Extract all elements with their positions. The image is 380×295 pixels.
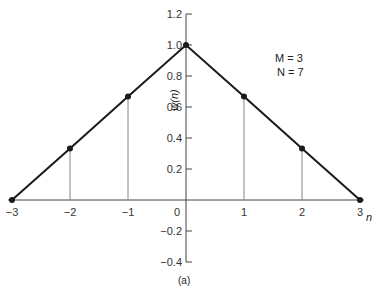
x-tick-label: −3 [6,206,19,218]
data-point [67,145,73,151]
data-point [9,197,15,203]
x-tick-label: −1 [122,206,135,218]
y-tick-label: 1.0 [167,39,182,51]
y-tick-label: 1.2 [167,8,182,20]
y-tick-label: 0.2 [167,163,182,175]
x-tick-label: 3 [357,206,363,218]
data-point [299,145,305,151]
x-tick-label: 0 [174,206,180,218]
data-point [125,94,131,100]
n-annotation: N = 7 [277,66,304,78]
m-annotation: M = 3 [275,52,303,64]
triangular-window-chart: 1.21.00.80.60.40.2−0.2−0.4−3−2−10123nw(n… [0,0,380,295]
data-point [241,94,247,100]
x-tick-label: 1 [241,206,247,218]
x-tick-label: 2 [299,206,305,218]
caption: (a) [178,275,190,286]
y-tick-label: 0.4 [167,132,182,144]
data-point [183,42,189,48]
x-axis-label: n [366,211,372,223]
y-tick-label: −0.2 [160,225,182,237]
y-tick-label: 0.8 [167,70,182,82]
data-point [357,197,363,203]
x-tick-label: −2 [64,206,77,218]
y-tick-label: −0.4 [160,256,182,268]
y-axis-label: w(n) [168,89,180,111]
